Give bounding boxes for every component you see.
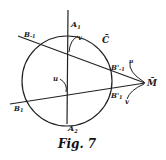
label-u-center: u [53,74,58,83]
arc-u-right [130,62,144,82]
label-b1: B1 [13,104,23,113]
label-u-right: u [129,57,134,64]
label-c: C̄ [102,34,110,45]
label-b-prime-minus1: B'-1 [110,63,125,72]
label-v-right: v [125,97,130,106]
label-b-prime1: B'1 [110,91,123,100]
arc-v-right [127,84,144,99]
arc-u-center [60,79,66,92]
line-b-minus1-m [18,36,145,83]
label-b-minus1: B-1 [23,30,35,39]
arc-v-top [69,36,78,52]
label-a1: A1 [70,19,81,30]
line-a1-a2 [67,10,68,124]
figure-7-diagram: A1 A2 C̄ M̄ B-1 B1 B'-1 B'1 v u u v Fig.… [0,0,166,160]
label-v-top: v [78,33,83,42]
label-m: M̄ [146,77,158,88]
figure-caption: Fig. 7 [57,137,97,151]
